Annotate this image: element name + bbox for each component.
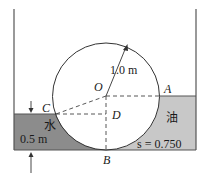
oil-sg-label: s = 0.750 (137, 137, 181, 151)
water-depth-label: 0.5 m (20, 132, 48, 146)
label-D: D (111, 108, 121, 122)
line-OC (56, 96, 106, 114)
label-O: O (94, 80, 103, 94)
oil-label: 油 (166, 111, 178, 125)
label-B: B (103, 153, 111, 167)
radius-arrowhead-icon (123, 44, 128, 51)
label-C: C (42, 101, 51, 115)
depth-arrow-bottom-icon (29, 152, 34, 157)
diagram-canvas: O A C D B 1.0 m 水 0.5 m 油 s = 0.750 (0, 0, 211, 187)
label-A: A (163, 82, 172, 96)
depth-arrow-top-icon (29, 108, 34, 113)
radius-label: 1.0 m (110, 63, 138, 77)
water-label: 水 (44, 119, 56, 133)
cylinder-gate-diagram: O A C D B 1.0 m 水 0.5 m 油 s = 0.750 (0, 0, 211, 187)
